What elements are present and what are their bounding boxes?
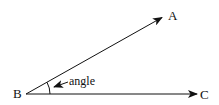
angle-pointer-arrow xyxy=(54,82,68,87)
label-vertex-b: B xyxy=(13,86,22,101)
angle-arc xyxy=(47,82,50,94)
label-point-c: C xyxy=(200,87,209,102)
label-point-a: A xyxy=(168,8,178,23)
angle-diagram: B A C angle xyxy=(0,0,219,105)
label-angle: angle xyxy=(69,74,95,88)
